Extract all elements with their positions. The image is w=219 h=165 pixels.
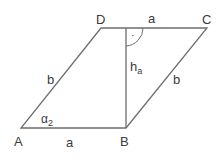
height-symbol: h [130,59,137,74]
height-label: ha [130,59,142,76]
angle-label: α2 [41,112,53,128]
height-subscript: a [137,66,142,76]
side-label-dc: a [148,11,156,26]
vertex-label-c: C [202,12,211,27]
vertex-label-b: B [120,134,129,149]
angle-symbol: α [41,112,48,126]
vertex-label-d: D [96,12,105,27]
parallelogram-diagram: · A B C D a a b b ha α2 [0,0,219,165]
side-label-bc: b [173,72,180,87]
side-label-ab: a [66,135,74,150]
angle-subscript: 2 [48,118,53,128]
side-label-ad: b [47,72,54,87]
right-angle-dot: · [131,29,135,41]
vertex-label-a: A [14,134,23,149]
